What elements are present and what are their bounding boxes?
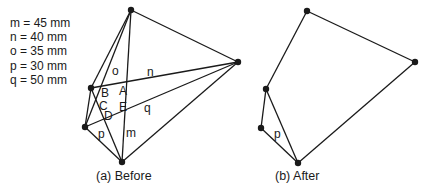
vertex-right xyxy=(412,59,418,65)
vertex-upper-left xyxy=(263,86,269,92)
edge-upperleft-lowerleft xyxy=(85,88,91,127)
label-n: n xyxy=(147,65,154,79)
label-o: o xyxy=(112,64,119,78)
label-B: B xyxy=(101,86,109,100)
label-p-after: p xyxy=(274,127,281,141)
vertex-bottom xyxy=(119,159,125,165)
caption-before: (a) Before xyxy=(96,169,152,183)
vertex-lower-left xyxy=(258,125,264,131)
edge-upperleft-lowerleft xyxy=(261,89,266,128)
edge-p xyxy=(266,89,298,163)
label-A: A xyxy=(119,84,127,98)
edge-top-right xyxy=(307,11,415,62)
label-D: D xyxy=(104,109,113,123)
label-m: m xyxy=(126,126,136,140)
edge-right-bottom xyxy=(122,62,238,162)
after-vertices xyxy=(258,8,418,166)
vertex-right xyxy=(235,59,241,65)
vertex-top xyxy=(128,7,134,13)
caption-after: (b) After xyxy=(275,169,319,183)
label-E: E xyxy=(119,100,127,114)
edge-top-upperleft xyxy=(91,10,131,88)
vertex-lower-left xyxy=(82,124,88,130)
vertex-upper-left xyxy=(88,85,94,91)
after-graph xyxy=(261,11,415,163)
label-p: p xyxy=(98,127,105,141)
edge-top-right xyxy=(131,10,238,62)
edge-right-bottom xyxy=(298,62,415,163)
diagram-canvas: o n q p m B A C E D (a) Before p (b) Aft… xyxy=(0,0,427,195)
vertex-bottom xyxy=(295,160,301,166)
edge-top-upperleft xyxy=(266,11,307,89)
vertex-top xyxy=(304,8,310,14)
label-q: q xyxy=(144,101,151,115)
